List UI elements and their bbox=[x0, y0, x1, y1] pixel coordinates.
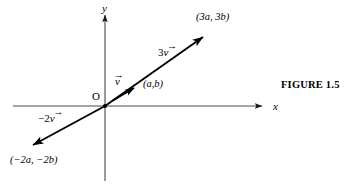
x-axis-label: x bbox=[273, 101, 278, 112]
point-label-3a-3b: (3a, 3b) bbox=[196, 12, 229, 23]
point-label-minus2a-minus2b: (−2a, −2b) bbox=[10, 155, 57, 166]
vector-arrow-accent-icon: → bbox=[167, 41, 177, 51]
vector-line-v bbox=[112, 88, 134, 101]
y-axis-label: y bbox=[102, 3, 107, 14]
figure-container: y x O v → 3 v → −2 v → (3a, 3b) (a,b) (−… bbox=[0, 0, 361, 191]
vector-label-minus2v: −2 v → bbox=[38, 113, 55, 124]
vector-label-v: v → bbox=[115, 76, 120, 87]
origin-label: O bbox=[92, 91, 100, 102]
point-label-a-b: (a,b) bbox=[143, 79, 163, 90]
origin-point bbox=[103, 104, 107, 108]
figure-caption: FIGURE 1.5 bbox=[281, 80, 340, 91]
vector-coefficient-minus2: −2 bbox=[38, 112, 50, 124]
vector-name-minus2v: v → bbox=[50, 113, 55, 124]
vector-arrow-accent-icon: → bbox=[114, 70, 124, 80]
vector-name-v: v → bbox=[115, 76, 120, 87]
vector-name-3v: v → bbox=[164, 47, 169, 58]
vector-label-3v: 3 v → bbox=[158, 47, 168, 58]
vector-arrow-accent-icon: → bbox=[53, 107, 63, 117]
